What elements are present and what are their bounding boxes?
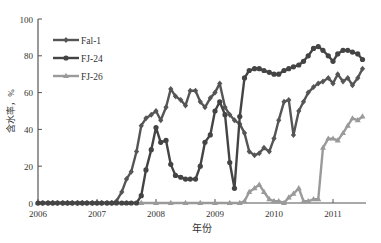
circle-marker-icon	[114, 200, 119, 205]
circle-marker-icon	[257, 66, 262, 71]
x-tick-label: 2010	[265, 209, 284, 219]
circle-marker-icon	[330, 59, 335, 64]
y-tick-label: 80	[24, 51, 34, 61]
circle-marker-icon	[65, 200, 70, 205]
circle-marker-icon	[188, 176, 193, 181]
circle-marker-icon	[222, 112, 227, 117]
circle-marker-icon	[40, 200, 45, 205]
y-ticks: 020406080100	[20, 15, 43, 209]
legend-label: FJ-26	[81, 72, 103, 82]
circle-marker-icon	[355, 51, 360, 56]
legend-item-fal-1: Fal-1	[53, 36, 101, 46]
circle-marker-icon	[143, 167, 148, 172]
circle-marker-icon	[178, 175, 183, 180]
circle-marker-icon	[158, 140, 163, 145]
y-axis-label: 含水率，%	[5, 89, 16, 133]
circle-marker-icon	[340, 48, 345, 53]
circle-marker-icon	[267, 70, 272, 75]
circle-marker-icon	[163, 138, 168, 143]
circle-marker-icon	[316, 44, 321, 49]
circle-marker-icon	[271, 72, 276, 77]
diamond-marker-icon	[134, 148, 139, 154]
circle-marker-icon	[139, 193, 144, 198]
circle-marker-icon	[208, 132, 213, 137]
circle-marker-icon	[55, 200, 60, 205]
circle-marker-icon	[276, 72, 281, 77]
circle-marker-icon	[261, 68, 266, 73]
circle-marker-icon	[291, 64, 296, 69]
series-fal-1	[35, 66, 365, 206]
circle-marker-icon	[104, 200, 109, 205]
circle-marker-icon	[296, 62, 301, 67]
circle-marker-icon	[50, 200, 55, 205]
triangle-marker-icon	[360, 113, 366, 118]
circle-marker-icon	[119, 200, 124, 205]
series-fj-26	[35, 113, 366, 205]
circle-marker-icon	[45, 200, 50, 205]
triangle-marker-icon	[256, 181, 262, 186]
circle-marker-icon	[75, 200, 80, 205]
circle-marker-icon	[124, 200, 129, 205]
series-group	[35, 44, 366, 206]
circle-marker-icon	[360, 57, 365, 62]
diamond-marker-icon	[63, 37, 68, 43]
x-tick-label: 2007	[88, 209, 107, 219]
circle-marker-icon	[212, 108, 217, 113]
circle-marker-icon	[281, 68, 286, 73]
legend-label: FJ-24	[81, 54, 103, 64]
circle-marker-icon	[198, 164, 203, 169]
circle-marker-icon	[286, 66, 291, 71]
circle-marker-icon	[202, 140, 207, 145]
series-fj-24	[35, 44, 365, 206]
triangle-marker-icon	[296, 185, 302, 190]
circle-marker-icon	[149, 147, 154, 152]
circle-marker-icon	[129, 200, 134, 205]
circle-marker-icon	[237, 114, 242, 119]
series-line	[38, 47, 363, 203]
y-tick-label: 0	[29, 199, 34, 209]
water-cut-chart: 020406080100 200620072008200920102011 年份…	[0, 0, 381, 243]
circle-marker-icon	[84, 200, 89, 205]
circle-marker-icon	[60, 200, 65, 205]
circle-marker-icon	[252, 66, 257, 71]
circle-marker-icon	[99, 200, 104, 205]
circle-marker-icon	[232, 186, 237, 191]
circle-marker-icon	[35, 200, 40, 205]
circle-marker-icon	[217, 99, 222, 104]
circle-marker-icon	[80, 200, 85, 205]
y-tick-label: 40	[24, 125, 34, 135]
y-tick-label: 20	[24, 162, 34, 172]
x-axis-label: 年份	[192, 222, 212, 234]
y-tick-label: 100	[20, 15, 34, 25]
circle-marker-icon	[311, 46, 316, 51]
circle-marker-icon	[350, 50, 355, 55]
circle-marker-icon	[320, 48, 325, 53]
triangle-marker-icon	[349, 115, 355, 120]
legend-item-fj-24: FJ-24	[53, 54, 103, 64]
x-tick-label: 2006	[29, 209, 48, 219]
circle-marker-icon	[247, 68, 252, 73]
series-line	[38, 117, 363, 203]
circle-marker-icon	[301, 59, 306, 64]
circle-marker-icon	[63, 55, 68, 60]
circle-marker-icon	[109, 200, 114, 205]
circle-marker-icon	[306, 53, 311, 58]
circle-marker-icon	[183, 176, 188, 181]
circle-marker-icon	[153, 125, 158, 130]
circle-marker-icon	[90, 200, 95, 205]
legend: Fal-1FJ-24FJ-26	[53, 36, 103, 82]
circle-marker-icon	[173, 173, 178, 178]
circle-marker-icon	[134, 200, 139, 205]
circle-marker-icon	[242, 75, 247, 80]
circle-marker-icon	[345, 48, 350, 53]
x-tick-label: 2008	[147, 209, 166, 219]
circle-marker-icon	[70, 200, 75, 205]
circle-marker-icon	[168, 162, 173, 167]
diamond-marker-icon	[291, 132, 296, 138]
x-tick-label: 2011	[324, 209, 342, 219]
circle-marker-icon	[94, 200, 99, 205]
legend-label: Fal-1	[81, 36, 101, 46]
circle-marker-icon	[193, 176, 198, 181]
legend-item-fj-26: FJ-26	[53, 72, 103, 82]
diamond-marker-icon	[286, 97, 291, 103]
